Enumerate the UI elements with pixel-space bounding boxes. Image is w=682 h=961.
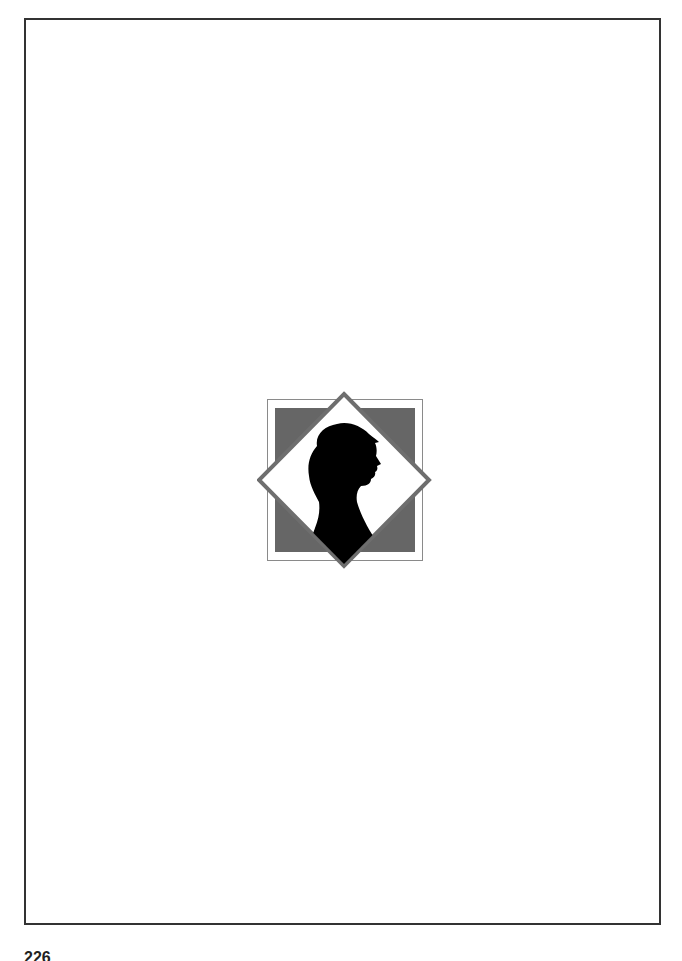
page-number: 226 [24,950,51,961]
boy-silhouette-icon [257,390,433,570]
silhouette-emblem [257,390,433,570]
